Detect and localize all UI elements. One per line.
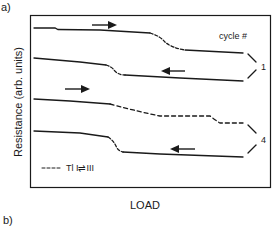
arrow-right-icon — [92, 21, 117, 29]
cycle-header-label: cycle # — [219, 31, 247, 41]
legend-label: Tl I⇌III — [66, 163, 94, 173]
bracket-cycle4-top — [248, 125, 256, 133]
x-axis-label: LOAD — [130, 199, 160, 211]
series-cycle1-unloading — [34, 58, 243, 81]
series-cycle4-unloading — [34, 131, 243, 157]
bracket-cycle1-top — [248, 54, 256, 62]
arrow-left-icon — [170, 145, 195, 153]
series-cycle4-loading — [34, 99, 243, 123]
cycle-1-label: 1 — [261, 62, 266, 72]
bracket-cycle1-bottom — [248, 70, 256, 78]
y-axis-label: Resistance (arb. units) — [12, 32, 24, 172]
arrow-right-icon — [65, 85, 90, 93]
plot-frame — [31, 16, 271, 188]
series-cycle1-loading — [34, 28, 243, 53]
chart-canvas: cycle # 1 4 Tl I⇌III — [0, 0, 274, 229]
panel-label-b: b) — [3, 214, 13, 226]
cycle-4-label: 4 — [261, 135, 266, 145]
arrow-left-icon — [161, 67, 185, 75]
bracket-cycle4-bottom — [248, 145, 256, 153]
